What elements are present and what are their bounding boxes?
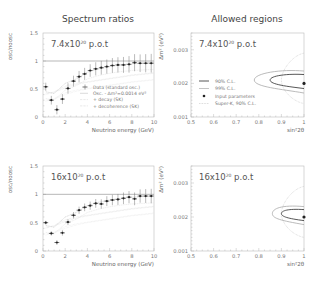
pot-label: 7.4x1020 p.o.t — [199, 39, 257, 49]
data-point — [100, 67, 102, 69]
data-point — [139, 195, 141, 197]
data-point — [56, 109, 58, 111]
data-point — [84, 73, 86, 75]
legend-entry: 90% C.L. — [215, 79, 235, 84]
y-tick-label: 0 — [35, 248, 38, 254]
data-point — [89, 205, 91, 207]
data-point — [67, 87, 69, 89]
allowed-legend: 90% C.L.99% C.L.Input parametersSuper-K,… — [199, 79, 256, 107]
data-point — [145, 62, 147, 64]
x-tick-label: 4 — [86, 253, 90, 259]
data-point — [45, 222, 47, 224]
allowed-plot-1: 0.0010.0020.0030.50.60.70.80.91sin²2θΔm²… — [158, 33, 306, 133]
y-tick-label: 0.001 — [173, 114, 188, 120]
y-axis-label: osc/noosc — [7, 166, 13, 193]
x-tick-label: 10 — [151, 119, 158, 125]
data-point — [111, 199, 113, 201]
data-point — [100, 203, 102, 205]
x-tick-label: 0 — [41, 119, 44, 125]
data-point — [106, 66, 108, 68]
pot-label: 7.4x1020 p.o.t — [51, 39, 109, 49]
data-point — [45, 86, 47, 88]
legend-entry: 99% C.L. — [215, 86, 235, 91]
data-point — [122, 197, 124, 199]
x-tick-label: 1 — [302, 253, 305, 259]
data-point — [150, 195, 152, 197]
y-tick-label: 1.5 — [30, 30, 38, 36]
contour-90cl — [270, 74, 304, 88]
x-tick-label: 1 — [302, 119, 305, 125]
x-tick-label: 4 — [86, 119, 90, 125]
legend-entry: Data (standard osc.) — [93, 85, 140, 90]
x-axis-label: Neutrino energy (GeV) — [92, 261, 154, 268]
x-tick-label: 0.5 — [187, 119, 195, 125]
x-axis-label: Neutrino energy (GeV) — [92, 127, 154, 134]
x-axis-label: sin²2θ — [287, 261, 305, 267]
x-tick-label: 6 — [108, 253, 111, 259]
data-point — [95, 68, 97, 70]
x-tick-label: 2 — [64, 119, 67, 125]
y-tick-label: 1 — [35, 191, 38, 197]
legend-entry: + decoherence (SK) — [93, 104, 139, 109]
data-point — [117, 198, 119, 200]
legend-entry: Input parameters — [215, 94, 256, 99]
x-tick-label: 8 — [130, 119, 133, 125]
legend-entry: Super-K, 90% C.L. — [215, 101, 256, 106]
spectrum-title: Spectrum ratios — [62, 14, 134, 24]
x-axis-label: sin²2θ — [287, 127, 305, 133]
data-point — [56, 241, 58, 243]
data-point — [50, 99, 52, 101]
y-tick-label: 1.5 — [30, 163, 38, 169]
data-point — [95, 202, 97, 204]
y-tick-label: 1 — [35, 58, 38, 64]
figure: Spectrum ratios Allowed regions 00.511.5… — [0, 0, 320, 282]
pot-label: 16x1020 p.o.t — [51, 172, 106, 182]
prediction-curve — [46, 206, 154, 228]
data-point — [139, 62, 141, 64]
x-tick-label: 0 — [41, 253, 44, 259]
legend-entry: Osc. - Δm²=0.0014 eV² — [93, 91, 146, 96]
data-point — [111, 64, 113, 66]
y-tick-label: 0.5 — [30, 86, 38, 92]
spectrum-plot-2: 00.511.50246810Neutrino energy (GeV)osc/… — [7, 163, 157, 268]
allowed-title: Allowed regions — [211, 14, 283, 24]
pot-label: 16x1020 p.o.t — [199, 172, 254, 182]
data-point — [61, 232, 63, 234]
legend-entry: + decay (SK) — [93, 97, 123, 102]
x-tick-label: 0.6 — [209, 253, 217, 259]
y-tick-label: 0.5 — [30, 220, 38, 226]
data-point — [89, 69, 91, 71]
data-point — [67, 221, 69, 223]
y-tick-label: 0.002 — [173, 80, 188, 86]
superk-contour — [281, 53, 304, 103]
x-tick-label: 8 — [130, 253, 133, 259]
x-tick-label: 0.7 — [232, 119, 240, 125]
y-tick-label: 0.001 — [173, 248, 188, 254]
spectrum-plot-1: 00.511.50246810Neutrino energy (GeV)osc/… — [7, 30, 157, 134]
superk-contour — [281, 186, 304, 237]
data-point — [133, 62, 135, 64]
x-tick-label: 0.9 — [277, 119, 285, 125]
y-tick-label: 0.002 — [173, 214, 188, 220]
data-point — [145, 195, 147, 197]
y-tick-label: 0 — [35, 114, 38, 120]
data-point — [78, 209, 80, 211]
x-tick-label: 10 — [151, 253, 158, 259]
x-tick-label: 0.7 — [232, 253, 240, 259]
allowed-plot-2: 0.0010.0020.0030.50.60.70.80.91sin²2θΔm²… — [158, 166, 306, 267]
x-tick-label: 0.6 — [209, 119, 217, 125]
x-tick-label: 2 — [64, 253, 67, 259]
data-point — [117, 64, 119, 66]
data-point — [84, 206, 86, 208]
y-tick-label: 0.003 — [173, 180, 188, 186]
data-point — [106, 200, 108, 202]
data-point — [133, 198, 135, 200]
x-tick-label: 6 — [108, 119, 111, 125]
data-point — [128, 196, 130, 198]
data-point — [50, 232, 52, 234]
x-tick-label: 0.8 — [255, 119, 263, 125]
data-point — [128, 63, 130, 65]
data-point — [72, 214, 74, 216]
input-parameter-marker — [302, 82, 305, 85]
x-tick-label: 0.5 — [187, 253, 195, 259]
